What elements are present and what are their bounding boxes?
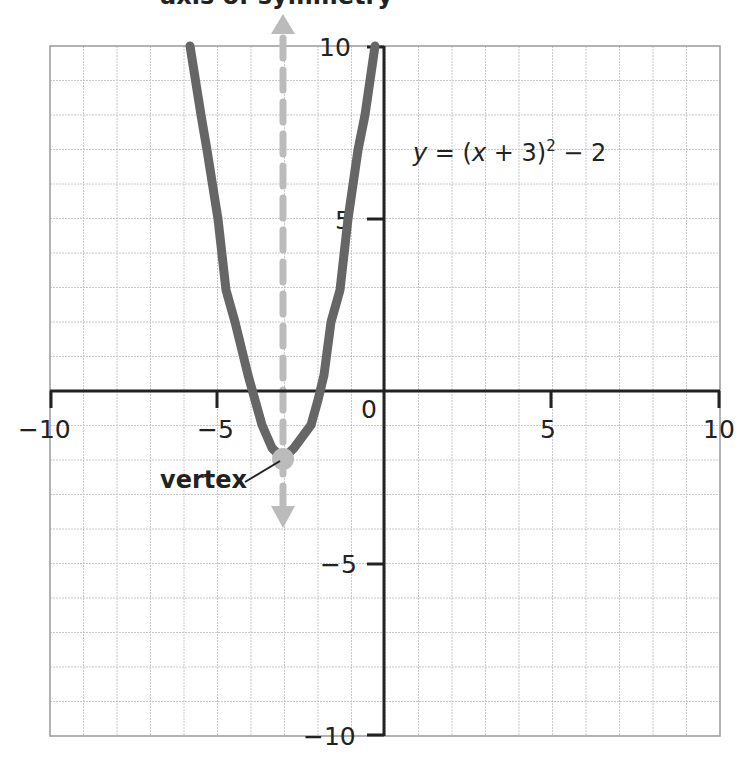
arrow-down-icon <box>271 506 295 528</box>
x-tick-label: −10 <box>18 415 71 444</box>
eq-var-y: y <box>412 139 428 167</box>
parabola-chart: axis of symmetry −10 −5 0 5 10 10 5 −5 −… <box>0 0 749 766</box>
eq-exponent: 2 <box>546 137 556 155</box>
vertex-label: vertex <box>160 466 248 494</box>
eq-var-x: x <box>471 139 487 167</box>
x-tick-label: −5 <box>197 415 234 444</box>
y-tick-label: −10 <box>303 722 356 751</box>
eq-part: + 3) <box>486 139 546 167</box>
y-tick-label: 10 <box>319 33 351 62</box>
equation-label: y = (x + 3)2 − 2 <box>412 137 606 167</box>
vertex-leader-line <box>245 461 280 482</box>
vertex-marker <box>272 448 294 470</box>
arrow-up-icon <box>271 14 295 34</box>
x-tick-label: 0 <box>361 395 377 424</box>
eq-part: = ( <box>427 139 472 167</box>
y-tick-label: −5 <box>320 550 357 579</box>
x-tick-label: 10 <box>703 415 735 444</box>
chart-title-clipped: axis of symmetry <box>160 0 393 10</box>
x-tick-label: 5 <box>540 415 556 444</box>
eq-part: − 2 <box>556 139 607 167</box>
